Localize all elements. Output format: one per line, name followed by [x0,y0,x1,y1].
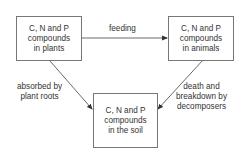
death-label-line-1: death and [176,82,227,92]
node-soil-line-1: C, N and P [105,106,145,116]
death-label-line-3: decomposers [176,102,227,112]
node-animals: C, N and P compounds in animals [168,16,234,61]
node-animals-line-1: C, N and P [181,24,221,34]
node-soil-line-2: compounds [104,116,146,126]
node-plants: C, N and P compounds in plants [16,16,82,61]
node-plants-line-3: in plants [34,44,65,54]
absorbed-label-line-2: plant roots [17,92,62,102]
feeding-label-text: feeding [109,24,136,33]
feeding-label: feeding [109,24,136,34]
death-label-line-2: breakdown by [176,92,227,102]
node-plants-line-2: compounds [28,34,70,44]
absorbed-label-line-1: absorbed by [17,82,62,92]
death-label: death and breakdown by decomposers [176,82,227,112]
absorbed-label: absorbed by plant roots [17,82,62,102]
node-soil-line-3: in the soil [108,126,143,136]
node-plants-line-1: C, N and P [29,24,69,34]
node-animals-line-3: in animals [183,44,220,54]
node-soil: C, N and P compounds in the soil [93,93,158,148]
node-animals-line-2: compounds [180,34,222,44]
